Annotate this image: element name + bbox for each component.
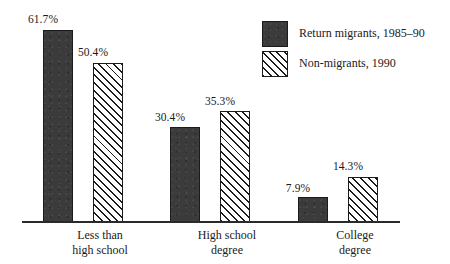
bar-value-label: 14.3% [321, 160, 375, 172]
category-label-line: degree [295, 243, 415, 258]
category-label-line: degree [167, 243, 287, 258]
category-label-line: high school [40, 243, 160, 258]
bar-non-migrants-high-school-degree [220, 111, 250, 222]
bar-value-label: 50.4% [66, 46, 120, 58]
category-label-high-school-degree: High school degree [167, 228, 287, 258]
legend-label: Return migrants, 1985–90 [299, 26, 425, 41]
legend-swatch-solid-dark-icon [262, 21, 288, 47]
bar-value-label: 61.7% [16, 13, 70, 25]
bar-return-migrants-college-degree [298, 197, 328, 222]
category-label-line: High school [167, 228, 287, 243]
bar-value-label: 30.4% [143, 111, 197, 123]
bar-non-migrants-college-degree [348, 177, 378, 222]
bar-non-migrants-less-than-high-school [93, 63, 123, 222]
chart-figure: 61.7% 50.4% Less than high school 30.4% … [0, 0, 450, 264]
category-label-line: College [295, 228, 415, 243]
x-axis-line [22, 221, 400, 223]
bar-return-migrants-less-than-high-school [43, 30, 73, 222]
bar-return-migrants-high-school-degree [170, 127, 200, 222]
category-label-line: Less than [40, 228, 160, 243]
legend-swatch-diagonal-hatch-icon [262, 51, 288, 77]
category-label-less-than-high-school: Less than high school [40, 228, 160, 258]
bar-value-label: 7.9% [271, 182, 325, 194]
legend-label: Non-migrants, 1990 [299, 56, 396, 71]
category-label-college-degree: College degree [295, 228, 415, 258]
bar-value-label: 35.3% [193, 95, 247, 107]
